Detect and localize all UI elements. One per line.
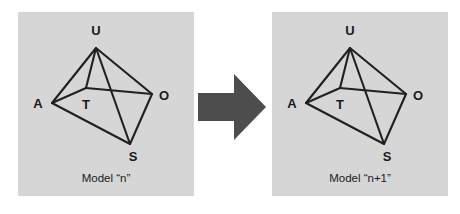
graph-edge-t-o <box>340 88 406 94</box>
graph-edge-t-o <box>86 88 152 94</box>
tetrahedron-graph-n: UATOS <box>18 12 194 162</box>
model-panel-n: UATOS Model “n” <box>18 12 194 196</box>
model-caption-n-plus-1: Model “n+1” <box>272 172 448 184</box>
vertex-label-o: O <box>413 89 423 102</box>
transition-arrow <box>198 74 266 140</box>
model-panel-n-plus-1: UATOS Model “n+1” <box>272 12 448 196</box>
tetrahedron-graph-n-plus-1: UATOS <box>272 12 448 162</box>
graph-edge-s-o <box>384 94 406 144</box>
vertex-label-s: S <box>383 150 392 163</box>
vertex-label-t: T <box>82 98 90 111</box>
model-caption-n: Model “n” <box>18 172 194 184</box>
model-panel-n-plus-1-inner: UATOS Model “n+1” <box>272 12 448 196</box>
figure-canvas: UATOS Model “n” UATOS Model “n+1” <box>0 0 460 214</box>
vertex-label-a: A <box>33 97 42 110</box>
vertex-label-o: O <box>159 89 169 102</box>
right-arrow-icon <box>198 74 266 140</box>
vertex-label-t: T <box>336 98 344 111</box>
model-panel-n-inner: UATOS Model “n” <box>18 12 194 196</box>
vertex-label-u: U <box>91 24 100 37</box>
vertex-label-u: U <box>345 24 354 37</box>
graph-edge-s-o <box>130 94 152 144</box>
vertex-label-a: A <box>287 97 296 110</box>
vertex-label-s: S <box>129 150 138 163</box>
